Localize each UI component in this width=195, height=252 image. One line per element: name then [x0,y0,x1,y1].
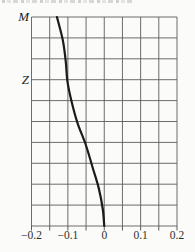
y-axis-label-Z: Z [22,72,29,88]
x-tick-label: −0.2 [21,229,42,242]
scanned-figure: M Z −0.2 −0.1 0 0.1 0.2 [0,0,195,252]
chart-canvas [0,0,195,252]
y-axis-label-M: M [18,9,29,25]
x-tick-label: 0.1 [133,229,147,242]
x-tick-label: −0.1 [57,229,78,242]
x-tick-label: 0.2 [170,229,184,242]
x-tick-label: 0 [101,229,107,242]
